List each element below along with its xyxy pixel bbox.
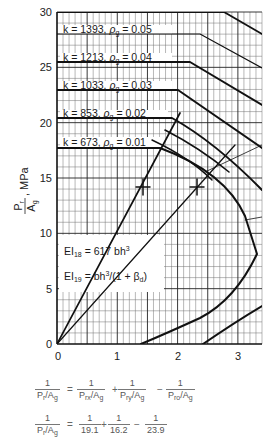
label-rho-0.05: k = 1393, ρg = 0.05	[63, 23, 152, 37]
y-tick-15: 15	[40, 172, 52, 184]
y-tick-25: 25	[40, 61, 52, 73]
x-tick-1: 1	[114, 350, 120, 362]
x-tick-labels: 0 1 2 3	[55, 350, 241, 362]
y-axis-label: Pr Ag , MPa	[12, 166, 39, 214]
label-rho-0.02: k = 853, ρg = 0.02	[63, 107, 146, 121]
y-tick-20: 20	[40, 117, 52, 129]
label-rho-0.03: k = 1033, ρg = 0.03	[63, 79, 152, 93]
y-tick-5: 5	[46, 283, 52, 295]
curve-labels: k = 1393, ρg = 0.05 k = 1213, ρg = 0.04 …	[63, 23, 152, 150]
formula1-minus: −	[157, 384, 163, 395]
y-tick-labels: 0 5 10 15 20 25 30	[40, 6, 52, 350]
svg-text:Ag: Ag	[25, 200, 39, 211]
formula2-term1: 1 19.1	[79, 413, 101, 436]
y-tick-10: 10	[40, 227, 52, 239]
leader-line-right	[245, 217, 262, 220]
formula1-equals: =	[67, 384, 73, 395]
y-tick-30: 30	[40, 6, 52, 18]
formula1-plus: +	[112, 384, 118, 395]
x-tick-3: 3	[235, 350, 241, 362]
svg-text:Pr: Pr	[12, 201, 25, 211]
x-tick-0: 0	[55, 350, 61, 362]
formula2-plus: +	[101, 419, 107, 430]
ei18-equation: EI18 = 617 bh3	[64, 245, 130, 258]
formula2-minus: −	[134, 419, 140, 430]
formula1-term3: 1 Pro/Ag	[166, 378, 195, 403]
formula2-lhs: 1 Pr/Ag	[35, 413, 60, 438]
formula1-term1: 1 Prx/Ag	[77, 378, 105, 403]
label-rho-0.04: k = 1213, ρg = 0.04	[63, 51, 152, 65]
svg-text:, MPa: , MPa	[18, 166, 30, 196]
formula2-term3: 1 23.9	[145, 413, 167, 436]
y-tick-0: 0	[46, 338, 52, 350]
formula2-term2: 1 16.2	[108, 413, 130, 436]
x-tick-2: 2	[175, 350, 181, 362]
formula1-lhs: 1 Pr/Ag	[35, 378, 60, 403]
label-rho-0.01: k = 673, ρg = 0.01	[63, 136, 146, 150]
formula2-equals: =	[67, 419, 73, 430]
formula1-term2: 1 Pry/Ag	[118, 378, 146, 403]
